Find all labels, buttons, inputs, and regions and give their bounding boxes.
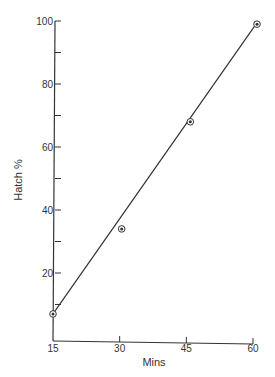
- y-axis: [53, 21, 55, 341]
- x-tick-label: 30: [114, 343, 126, 354]
- fit-line: [53, 24, 256, 314]
- y-tick-label: 100: [36, 16, 53, 27]
- axes: [53, 21, 253, 344]
- x-axis-label: Mins: [142, 356, 166, 368]
- y-tick-label: 20: [42, 268, 54, 279]
- x-tick-label: 15: [47, 343, 59, 354]
- x-axis: [53, 341, 253, 344]
- x-tick-label: 45: [181, 343, 193, 354]
- y-tick-label: 80: [42, 79, 54, 90]
- y-tick-label: 60: [42, 142, 54, 153]
- y-ticks: 20406080100: [36, 16, 61, 305]
- x-tick-label: 60: [247, 343, 259, 354]
- x-ticks: 15304560: [47, 336, 259, 354]
- y-axis-label: Hatch %: [12, 159, 24, 201]
- y-tick-label: 40: [42, 205, 54, 216]
- chart: 20406080100 15304560 Mins Hatch %: [0, 0, 275, 377]
